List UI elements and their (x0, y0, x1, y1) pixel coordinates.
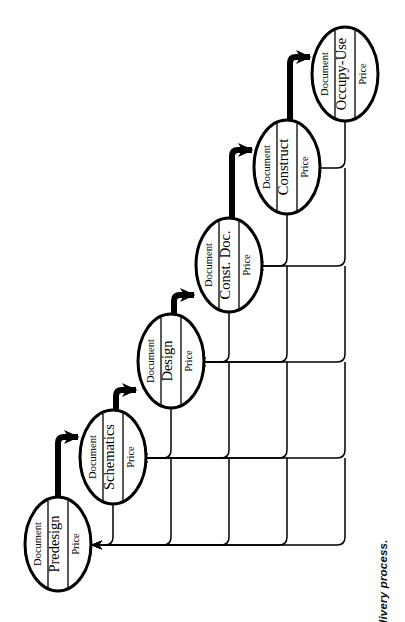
node-schematics[interactable]: Document Schematics Price (80, 410, 146, 504)
diagram-canvas: Document Predesign Price Document Schema… (0, 0, 405, 622)
node-schematics-price-label: Price (125, 446, 136, 468)
node-occupyuse-document-label: Document (319, 52, 330, 96)
node-constdoc-price-label: Price (241, 254, 252, 276)
node-predesign-price-label: Price (70, 533, 81, 555)
flow-diagram-svg: Document Predesign Price Document Schema… (0, 0, 405, 622)
flow-predesign-to-schematics (58, 437, 78, 497)
figure-caption: Figure 1–5:Phases and functions in the p… (377, 618, 403, 622)
node-constdoc[interactable]: Document Const. Doc. Price (196, 218, 262, 312)
node-design-document-label: Document (145, 339, 156, 383)
node-construct-phase-label: Construct (275, 139, 291, 195)
node-construct[interactable]: Document Construct Price (254, 120, 320, 214)
node-construct-price-label: Price (299, 156, 310, 178)
figure-caption-text: Phases and functions in the project deli… (377, 539, 389, 622)
node-predesign[interactable]: Document Predesign Price (25, 497, 91, 591)
figure-container: Document Predesign Price Document Schema… (0, 0, 405, 622)
node-occupyuse-phase-label: Occupy-Use (333, 38, 349, 110)
node-design[interactable]: Document Design Price (138, 314, 204, 408)
node-schematics-document-label: Document (87, 435, 98, 479)
node-predesign-document-label: Document (32, 522, 43, 566)
node-occupyuse-price-label: Price (357, 63, 368, 85)
feedback-schematics-to-predesign (92, 503, 113, 545)
node-occupyuse[interactable]: Document Occupy-Use Price (312, 27, 378, 121)
node-design-phase-label: Design (159, 340, 175, 382)
node-design-price-label: Price (183, 350, 194, 372)
node-schematics-phase-label: Schematics (101, 424, 117, 490)
node-constdoc-phase-label: Const. Doc. (217, 231, 233, 300)
node-predesign-phase-label: Predesign (46, 515, 62, 573)
node-construct-document-label: Document (261, 145, 272, 189)
node-constdoc-document-label: Document (203, 243, 214, 287)
